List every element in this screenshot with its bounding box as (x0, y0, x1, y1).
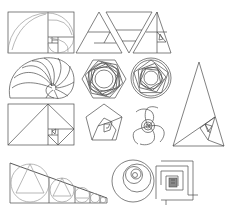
rotated-hexagons (82, 59, 126, 100)
golden-ratio-illustration (0, 0, 232, 216)
golden-triangles-row (76, 12, 171, 53)
golden-rectangle-diagonals (8, 104, 74, 145)
square-spiral (156, 161, 198, 205)
circles-in-triangle (10, 163, 107, 203)
rotated-pentagons (131, 58, 171, 98)
circle-spiral (112, 160, 154, 202)
nautilus-spiral (9, 58, 74, 99)
golden-triangle-spiral (173, 62, 224, 146)
pentagon-spiral (86, 104, 122, 140)
swirl-spiral (133, 107, 164, 145)
golden-rectangle-arcs (8, 12, 74, 53)
